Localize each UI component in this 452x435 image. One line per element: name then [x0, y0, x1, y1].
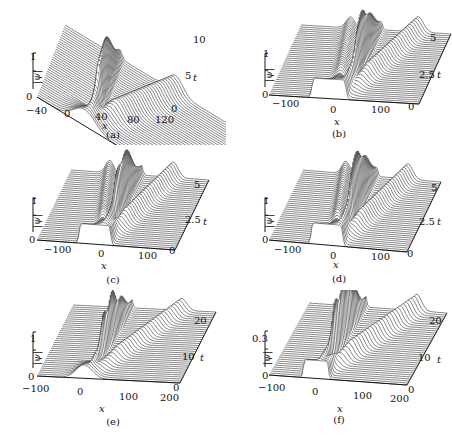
t-tick: 5 — [194, 180, 200, 190]
panel-caption: (d) — [226, 274, 452, 284]
x-tick: 0 — [330, 105, 336, 115]
t-axis-label: t — [437, 355, 441, 365]
x-tick: 120 — [155, 115, 174, 125]
z-tick-max: 1 — [30, 52, 36, 62]
t-tick: 0 — [171, 104, 177, 114]
x-tick: 0 — [312, 387, 318, 397]
t-tick: 10 — [193, 35, 206, 45]
z-axis-label: |ψ| — [32, 70, 42, 85]
x-tick: −100 — [44, 245, 71, 255]
x-tick: −100 — [258, 383, 285, 393]
t-axis-label: t — [437, 70, 441, 80]
panel-c: 1 0 |ψ| −100 0 100 x 0 2.5 5 t (c) — [0, 145, 226, 290]
t-tick: 0 — [408, 102, 414, 112]
z-tick-min: 0 — [26, 92, 32, 102]
panel-d: 1 0 |ψ| −100 0 100 x 0 2.5 5 t (d) — [226, 145, 452, 290]
x-tick: −40 — [26, 106, 47, 116]
t-tick: 2.5 — [419, 217, 435, 227]
x-tick: 200 — [390, 394, 409, 404]
z-tick-max: 1 — [263, 196, 269, 206]
x-axis-label: x — [334, 117, 340, 127]
t-axis-label: t — [200, 353, 204, 363]
z-tick-max: 1 — [30, 334, 36, 344]
z-tick-min: 0 — [28, 372, 34, 382]
t-tick: 10 — [182, 352, 195, 362]
t-axis-label: t — [193, 73, 197, 83]
panel-caption: (c) — [0, 275, 226, 285]
x-tick: 100 — [119, 392, 138, 402]
z-axis-label: |ψ| — [264, 68, 274, 83]
z-tick-min: 0 — [262, 235, 268, 245]
x-tick: 200 — [160, 393, 179, 403]
t-tick: 5 — [430, 33, 436, 43]
x-tick: 100 — [353, 391, 372, 401]
panel-caption: (b) — [226, 129, 452, 139]
t-tick: 0 — [408, 385, 414, 395]
z-axis-label: |ψ| — [262, 351, 272, 366]
x-tick: −100 — [272, 99, 299, 109]
x-tick: 100 — [138, 251, 157, 261]
t-tick: 0 — [169, 246, 175, 256]
t-tick: 10 — [418, 353, 431, 363]
t-tick: 2.5 — [419, 70, 435, 80]
x-axis-label: x — [101, 261, 107, 271]
x-tick: 100 — [371, 252, 390, 262]
x-tick: −100 — [274, 245, 301, 255]
t-tick: 20 — [429, 316, 442, 326]
x-axis-label: x — [99, 404, 105, 414]
panel-f: 0.3 0 |ψ| −100 0 100 200 x 0 10 20 t (f) — [226, 290, 452, 435]
z-axis-label: |ψ| — [264, 214, 274, 229]
z-axis-label: |ψ| — [32, 351, 42, 366]
t-tick: 0 — [407, 249, 413, 259]
z-axis-label: |ψ| — [32, 214, 42, 229]
x-tick: 0 — [98, 249, 104, 259]
x-tick: 100 — [371, 105, 390, 115]
x-tick: 0 — [77, 387, 83, 397]
panel-b: 1 0 |ψ| −100 0 100 x 0 2.5 5 t (b) — [226, 0, 452, 145]
x-axis-label: x — [337, 404, 343, 414]
z-tick-max: 1 — [31, 196, 37, 206]
t-tick: 5 — [185, 71, 191, 81]
x-tick: −100 — [22, 384, 49, 394]
z-tick-min: 0 — [29, 235, 35, 245]
panel-a: 1 0 |ψ| −40 0 40 80 120 x 0 5 10 t (a) — [0, 0, 226, 145]
z-tick-min: 0 — [262, 371, 268, 381]
t-tick: 5 — [431, 183, 437, 193]
panel-caption: (f) — [226, 415, 452, 425]
t-axis-label: t — [203, 217, 207, 227]
x-tick: 0 — [64, 109, 70, 119]
t-tick: 2.5 — [185, 215, 201, 225]
x-tick: 80 — [127, 115, 140, 125]
t-axis-label: t — [437, 217, 441, 227]
t-tick: 0 — [173, 383, 179, 393]
z-tick-max: 0.3 — [252, 334, 268, 344]
panel-e: 1 0 |ψ| −100 0 100 200 x 0 10 20 t (e) — [0, 290, 226, 435]
panel-caption: (e) — [0, 417, 226, 427]
z-tick-min: 0 — [262, 90, 268, 100]
t-tick: 20 — [194, 316, 207, 326]
panel-caption: (a) — [0, 130, 226, 140]
x-axis-label: x — [333, 260, 339, 270]
z-tick-max: 1 — [263, 49, 269, 59]
